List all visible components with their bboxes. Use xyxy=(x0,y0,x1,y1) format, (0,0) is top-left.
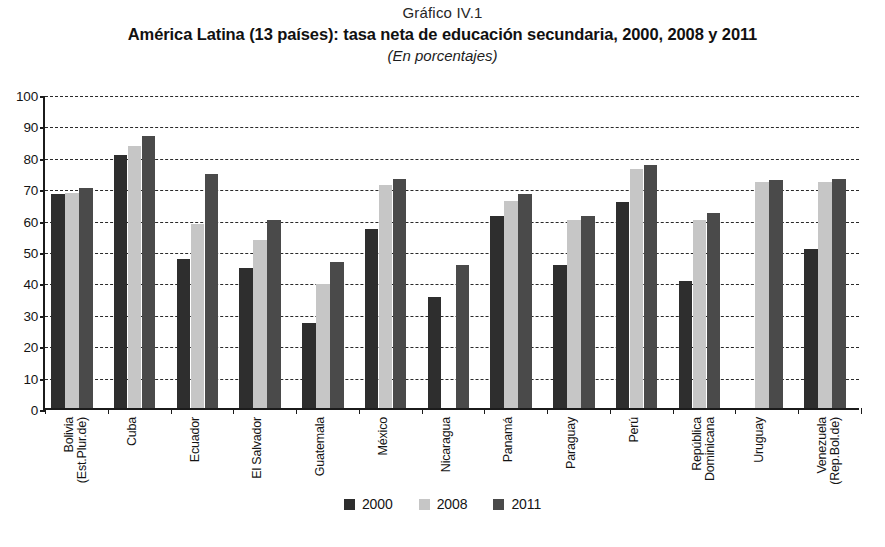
x-axis-tick-mark xyxy=(610,408,611,414)
bar-2008 xyxy=(379,185,393,408)
x-axis-label: Guatemala xyxy=(314,417,327,476)
x-axis-label: El Salvador xyxy=(251,417,264,479)
x-axis-tick-mark xyxy=(484,408,485,414)
bar-group xyxy=(610,96,673,408)
bar-2008 xyxy=(128,146,142,408)
bar-2011 xyxy=(79,188,93,408)
x-axis-label: Uruguay xyxy=(753,417,766,463)
legend-label: 2011 xyxy=(511,496,541,512)
bar-2011 xyxy=(581,216,595,408)
bar-group xyxy=(108,96,171,408)
y-axis-tick-label: 0 xyxy=(31,403,38,418)
bar-group xyxy=(296,96,359,408)
bar-2000 xyxy=(177,259,191,408)
bar-2008 xyxy=(755,182,769,408)
bar-2000 xyxy=(302,323,316,408)
bar-2011 xyxy=(769,180,783,408)
y-axis-tick-label: 10 xyxy=(23,371,38,386)
bar-2008 xyxy=(567,220,581,408)
bar-2000 xyxy=(679,281,693,408)
bar-2008 xyxy=(191,224,205,408)
bar-group xyxy=(735,96,798,408)
x-axis-tick-mark xyxy=(673,408,674,414)
legend-label: 2000 xyxy=(362,496,393,512)
bars-layer xyxy=(45,96,859,408)
x-axis-tick-mark xyxy=(798,408,799,414)
x-axis-label: México xyxy=(377,417,390,455)
bar-2000 xyxy=(428,297,442,408)
legend-swatch-2011 xyxy=(493,499,504,510)
legend-swatch-2000 xyxy=(344,499,355,510)
legend-label: 2008 xyxy=(437,496,468,512)
bar-2000 xyxy=(365,229,379,408)
chart-subtitle: (En porcentajes) xyxy=(0,47,885,64)
x-axis-tick-mark xyxy=(861,408,862,414)
y-axis-tick-label: 70 xyxy=(23,183,38,198)
x-axis-label: Bolivia(Est.Plur.de) xyxy=(63,417,89,483)
bar-2011 xyxy=(456,265,470,408)
bar-2008 xyxy=(65,193,79,408)
bar-2011 xyxy=(707,213,721,408)
x-axis-label: Venezuela(Rep.Bol.de) xyxy=(816,417,842,485)
y-axis-tick-label: 60 xyxy=(23,214,38,229)
legend-item: 2011 xyxy=(493,496,541,512)
x-axis-tick-mark xyxy=(171,408,172,414)
x-axis-tick-mark xyxy=(296,408,297,414)
bar-2000 xyxy=(616,202,630,408)
bar-2000 xyxy=(51,194,65,408)
x-axis-tick-mark xyxy=(108,408,109,414)
chart-number: Gráfico IV.1 xyxy=(0,4,885,21)
legend-item: 2008 xyxy=(419,496,468,512)
x-axis-tick-mark xyxy=(735,408,736,414)
bar-2008 xyxy=(504,201,518,408)
bar-2011 xyxy=(330,262,344,408)
x-axis-label: Perú xyxy=(628,417,641,443)
x-axis-tick-mark xyxy=(547,408,548,414)
y-axis-tick-label: 100 xyxy=(16,89,38,104)
x-axis-label: RepúblicaDominicana xyxy=(691,417,717,481)
y-axis-tick-label: 80 xyxy=(23,151,38,166)
bar-2011 xyxy=(267,220,281,408)
bar-2000 xyxy=(490,216,504,408)
bar-group xyxy=(171,96,234,408)
y-axis-tick-label: 20 xyxy=(23,340,38,355)
bar-group xyxy=(422,96,485,408)
bar-group xyxy=(484,96,547,408)
bar-2008 xyxy=(693,220,707,408)
x-axis-tick-mark xyxy=(359,408,360,414)
bar-group xyxy=(798,96,861,408)
bar-group xyxy=(45,96,108,408)
bar-2011 xyxy=(518,194,532,408)
bar-group xyxy=(359,96,422,408)
bar-2000 xyxy=(804,249,818,408)
chart-header: Gráfico IV.1 América Latina (13 países):… xyxy=(0,4,885,64)
page-title: América Latina (13 países): tasa neta de… xyxy=(0,25,885,44)
bar-2000 xyxy=(553,265,567,408)
y-axis-tick-label: 40 xyxy=(23,277,38,292)
x-axis-tick-mark xyxy=(422,408,423,414)
x-axis-tick-mark xyxy=(233,408,234,414)
bar-2008 xyxy=(316,284,330,408)
bar-2011 xyxy=(142,136,156,408)
legend-swatch-2008 xyxy=(419,499,430,510)
legend-item: 2000 xyxy=(344,496,393,512)
bar-2008 xyxy=(818,182,832,408)
y-axis-tick-label: 50 xyxy=(23,246,38,261)
bar-2008 xyxy=(630,169,644,408)
chart-plot-area: 0102030405060708090100 Bolivia(Est.Plur.… xyxy=(43,96,859,410)
x-axis-label: Panamá xyxy=(502,417,515,462)
bar-group xyxy=(673,96,736,408)
bar-2000 xyxy=(239,268,253,408)
x-axis-label: Cuba xyxy=(126,417,139,446)
x-axis-label: Paraguay xyxy=(565,417,578,469)
x-axis-label: Nicaragua xyxy=(440,417,453,472)
bar-2011 xyxy=(644,165,658,408)
x-axis-label: Ecuador xyxy=(189,417,202,462)
x-axis-tick-mark xyxy=(45,408,46,414)
bar-2011 xyxy=(393,179,407,408)
bar-group xyxy=(547,96,610,408)
y-axis-tick-label: 30 xyxy=(23,308,38,323)
bar-2011 xyxy=(832,179,846,408)
bar-2008 xyxy=(253,240,267,408)
bar-group xyxy=(233,96,296,408)
